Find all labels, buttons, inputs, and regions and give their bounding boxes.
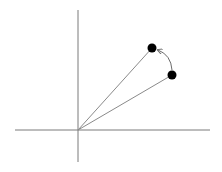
rotation-diagram: [0, 0, 222, 172]
initial-vector: [78, 75, 172, 130]
rotated-vector: [78, 48, 152, 130]
rotation-arc: [158, 50, 172, 70]
initial-point: [168, 71, 177, 80]
rotated-point: [148, 44, 157, 53]
